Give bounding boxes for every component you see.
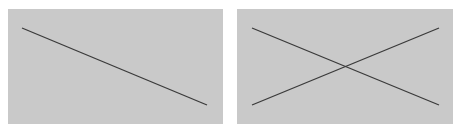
- single-diagonal-panel: [8, 9, 223, 124]
- diagonal-line-graphic: [8, 9, 223, 124]
- crossed-diagonals-panel: [237, 9, 453, 124]
- diagonal-line: [22, 28, 207, 105]
- cross-lines-graphic: [237, 9, 453, 124]
